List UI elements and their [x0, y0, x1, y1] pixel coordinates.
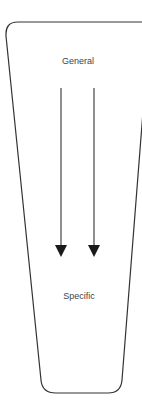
general-label: General — [38, 56, 118, 66]
funnel-shape — [6, 22, 142, 393]
specific-label: Specific — [39, 291, 119, 301]
